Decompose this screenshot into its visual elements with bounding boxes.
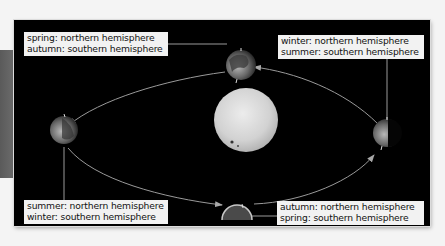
label-right-line2: summer: southern hemisphere [281, 47, 421, 58]
label-bottom-line2: spring: southern hemisphere [280, 213, 421, 224]
label-bottom-position: autumn: northern hemisphere spring: sout… [277, 201, 424, 225]
label-right-position: winter: northern hemisphere summer: sout… [278, 35, 424, 59]
earth-bottom [222, 204, 252, 220]
earth-left [50, 114, 78, 144]
label-top-position: spring: northern hemisphere autumn: sout… [24, 32, 168, 56]
orbit-arc-bottom-to-right [254, 155, 374, 204]
sun [214, 88, 278, 152]
orbit-diagram-panel: spring: northern hemisphere autumn: sout… [14, 20, 430, 226]
earth-right [373, 117, 402, 150]
label-top-line2: autumn: southern hemisphere [27, 44, 165, 55]
orbit-arc-top-to-left [69, 72, 225, 125]
label-left-line2: winter: southern hemisphere [27, 212, 165, 223]
earth-top [226, 48, 256, 83]
orbit-arc-left-to-bottom [68, 148, 222, 205]
label-left-position: summer: northern hemisphere winter: sout… [24, 200, 168, 224]
